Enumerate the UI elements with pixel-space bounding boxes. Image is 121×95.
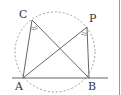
angle-mark-p xyxy=(82,32,87,33)
segment-cb xyxy=(32,20,89,78)
label-b: B xyxy=(88,80,96,93)
segment-ca xyxy=(23,20,32,78)
geometry-diagram: C P A B xyxy=(0,0,121,95)
label-p: P xyxy=(89,12,97,25)
angle-mark-c-2 xyxy=(31,28,38,30)
angle-mark-c xyxy=(31,26,37,28)
label-a: A xyxy=(14,80,24,93)
label-c: C xyxy=(19,8,27,21)
segment-pb xyxy=(87,27,89,78)
segment-pa xyxy=(23,27,87,78)
